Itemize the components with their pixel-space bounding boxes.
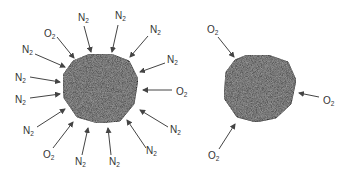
arrow-n2 [108, 128, 111, 155]
molecule-label: N2 [15, 72, 26, 84]
right-particle-body [224, 55, 296, 122]
arrow-n2 [112, 25, 118, 52]
molecule-label: N2 [170, 124, 181, 136]
arrow-o2-topleft [218, 37, 234, 57]
arrow-n2 [130, 36, 148, 57]
arrow-n2 [140, 63, 165, 72]
molecule-label: N2 [109, 156, 120, 168]
left-particle [30, 25, 172, 155]
molecule-label: O2 [44, 28, 56, 40]
arrow-n2 [84, 26, 91, 52]
molecule-label: N2 [78, 12, 89, 24]
molecule-label: N2 [75, 156, 86, 168]
molecule-label: N2 [23, 125, 34, 137]
molecule-label: O2 [176, 86, 188, 98]
arrow-n2 [30, 77, 60, 82]
arrow-n2 [140, 110, 168, 127]
arrow-n2 [37, 109, 65, 127]
molecule-label: N2 [115, 10, 126, 22]
arrow-o2-right [299, 93, 319, 97]
molecule-label: N2 [150, 24, 161, 36]
arrow-n2 [82, 128, 88, 155]
arrow-n2 [127, 120, 146, 148]
arrow-n2 [30, 94, 60, 98]
molecule-label: O2 [43, 149, 55, 161]
arrow-n2 [35, 54, 65, 67]
left-particle-body [63, 54, 138, 123]
molecule-label: O2 [207, 24, 219, 36]
molecule-label: N2 [15, 94, 26, 106]
right-particle [218, 37, 319, 149]
molecule-label: N2 [146, 145, 157, 157]
diagram-canvas: O2 N2 N2 N2 N2 N2 N2 O2 N2 N2 N2 N2 O2 N… [0, 0, 351, 175]
arrow-o2-topleft [57, 37, 74, 58]
molecule-label: N2 [167, 54, 178, 66]
molecule-label: N2 [22, 44, 33, 56]
arrow-o2-bottomleft [53, 122, 73, 148]
arrow-o2-bottomleft [219, 124, 235, 149]
molecule-label: O2 [208, 150, 220, 162]
molecule-label: O2 [323, 95, 335, 107]
